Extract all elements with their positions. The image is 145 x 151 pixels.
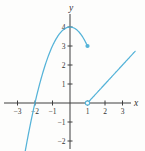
linear-branch-curve [88,51,136,103]
x-axis-label: x [133,98,139,108]
graph-svg: xy−3−2−1123−2−11234 [0,0,145,151]
parabolic-branch-curve [25,27,87,151]
x-tick-label: −1 [49,107,57,116]
y-tick-label: 1 [62,80,66,89]
y-axis-label: y [68,3,74,13]
x-tick-label: 1 [86,107,90,116]
x-tick-label: 3 [121,107,125,116]
x-tick-label: 2 [103,107,107,116]
closed-endpoint-dot [85,44,89,48]
x-tick-label: −3 [14,107,22,116]
open-endpoint-circle [85,101,89,105]
y-tick-label: 3 [62,42,66,51]
y-tick-label: −1 [58,118,66,127]
piecewise-function-figure: xy−3−2−1123−2−11234 [0,0,145,151]
y-tick-label: 2 [62,61,66,70]
y-tick-label: −2 [58,137,66,146]
